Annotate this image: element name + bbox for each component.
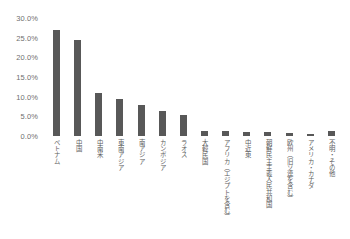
bar [74,40,81,136]
x-axis-label: 東南アジア [117,139,124,170]
bar-slot [215,18,236,136]
y-tick-label: 25.0% [16,33,38,42]
x-label-slot: 南アジア [131,139,152,237]
x-axis-label: 中近東 [243,139,250,158]
bar-slot [131,18,152,136]
bar [159,111,166,136]
x-label-slot: 不明・その他 [321,139,342,237]
bar [53,30,60,136]
plot-area [46,18,342,136]
bar-slot [321,18,342,136]
bar [180,115,187,136]
bar-slot [173,18,194,136]
x-label-slot: 中国 [67,139,88,237]
y-tick-label: 0.0% [21,132,39,141]
y-tick-label: 20.0% [16,53,38,62]
x-label-slot: 朝鮮民主主義人民共和国 [257,139,278,237]
x-axis-label: カンボジア [159,139,166,170]
bar-slot [279,18,300,136]
bar [138,105,145,136]
x-label-slot: 中近東 [236,139,257,237]
x-axis-label: 欧州（旧ソ連を含む） [286,139,293,201]
bar-slot [194,18,215,136]
y-tick-label: 10.0% [16,92,38,101]
x-axis-label: 朝鮮民主主義人民共和国 [265,139,272,207]
bar-chart: 30.0% 25.0% 20.0% 15.0% 10.0% 5.0% 0.0% … [0,0,350,239]
x-axis-label: アフリカ（エジプトを含む） [222,139,229,220]
x-axis-label: 南アジア [138,139,145,164]
x-label-slot: 東南アジア [109,139,130,237]
bar [328,131,335,136]
bar-slot [67,18,88,136]
x-axis-label: 中南米 [95,139,102,158]
bar-slot [152,18,173,136]
x-label-slot: 大韓民国 [194,139,215,237]
y-axis: 30.0% 25.0% 20.0% 15.0% 10.0% 5.0% 0.0% [0,18,42,136]
x-label-slot: カンボジア [152,139,173,237]
bar [264,132,271,136]
x-axis-label: アメリカ・カナダ [307,139,314,189]
x-axis-label: 中国 [74,139,81,151]
bar [307,134,314,136]
x-axis-label: ラオス [180,139,187,158]
bar-slot [46,18,67,136]
bar-slot [109,18,130,136]
bar [222,131,229,136]
bar [201,131,208,137]
x-axis-label: 大韓民国 [201,139,208,164]
bar [286,133,293,136]
x-axis-label: ベトナム [53,139,60,164]
x-label-slot: ベトナム [46,139,67,237]
bar [243,132,250,136]
y-tick-label: 30.0% [16,14,38,23]
y-tick-label: 15.0% [16,73,38,82]
x-axis-labels: ベトナム中国中南米東南アジア南アジアカンボジアラオス大韓民国アフリカ（エジプトを… [46,139,342,237]
bar [95,93,102,136]
bar-series [46,18,342,136]
bar-slot [88,18,109,136]
bar-slot [236,18,257,136]
bar [116,99,123,136]
x-label-slot: 中南米 [88,139,109,237]
x-axis-label: 不明・その他 [328,139,335,176]
x-label-slot: 欧州（旧ソ連を含む） [279,139,300,237]
bar-slot [257,18,278,136]
x-label-slot: アメリカ・カナダ [300,139,321,237]
x-label-slot: アフリカ（エジプトを含む） [215,139,236,237]
bar-slot [300,18,321,136]
y-tick-label: 5.0% [21,112,39,121]
x-label-slot: ラオス [173,139,194,237]
